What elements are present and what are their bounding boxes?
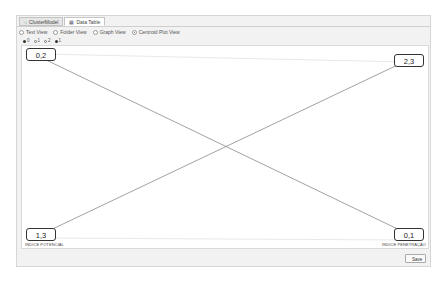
- legend-item: 2: [44, 38, 51, 44]
- app-window: ⤷ ClusterModel ▦ Data Table Text View Fo…: [16, 15, 431, 267]
- centroid-node-top-left[interactable]: 0,2: [26, 48, 56, 61]
- plot-legend: 0 1 2 1: [23, 38, 61, 44]
- legend-label: 1: [38, 38, 41, 44]
- tab-label: ClusterModel: [29, 18, 58, 26]
- radio-button[interactable]: [132, 30, 137, 35]
- radio-graph-view[interactable]: Graph View: [93, 28, 126, 36]
- legend-swatch-icon: [34, 40, 37, 43]
- tab-label: Data Table: [76, 18, 100, 26]
- axis-label-left: INDICE POTENCIAL: [25, 242, 64, 247]
- cluster-icon: ⤷: [24, 18, 27, 26]
- radio-label: Folder View: [60, 28, 86, 36]
- legend-swatch-icon: [55, 40, 58, 43]
- plot-lines: [22, 46, 428, 248]
- legend-swatch-icon: [44, 40, 47, 43]
- centroid-plot[interactable]: 0,2 2,3 1,3 0,1 INDICE POTENCIAL INDICE …: [21, 45, 429, 249]
- legend-item: 1: [55, 38, 62, 44]
- radio-label: Centroid Plot View: [139, 28, 180, 36]
- legend-label: 2: [48, 38, 51, 44]
- radio-centroid-plot-view[interactable]: Centroid Plot View: [132, 28, 180, 36]
- centroid-node-top-right[interactable]: 2,3: [394, 54, 424, 67]
- radio-button[interactable]: [93, 30, 98, 35]
- radio-button[interactable]: [53, 30, 58, 35]
- radio-folder-view[interactable]: Folder View: [53, 28, 86, 36]
- legend-item: 0: [23, 38, 30, 44]
- tab-data-table[interactable]: ▦ Data Table: [64, 17, 105, 26]
- legend-item: 1: [34, 38, 41, 44]
- legend-label: 1: [59, 38, 62, 44]
- view-mode-radio-group: Text View Folder View Graph View Centroi…: [19, 28, 180, 36]
- tab-divider: [17, 26, 430, 27]
- centroid-node-bottom-left[interactable]: 1,3: [26, 228, 56, 241]
- radio-label: Text View: [26, 28, 47, 36]
- legend-swatch-icon: [23, 40, 26, 43]
- save-button[interactable]: Save: [405, 254, 426, 263]
- table-icon: ▦: [69, 18, 74, 26]
- tab-cluster-model[interactable]: ⤷ ClusterModel: [19, 17, 63, 26]
- radio-label: Graph View: [100, 28, 126, 36]
- radio-button[interactable]: [19, 30, 24, 35]
- tab-bar: ⤷ ClusterModel ▦ Data Table: [19, 17, 105, 26]
- axis-label-right: INDICE PENETRAÇÃO: [382, 242, 426, 247]
- legend-label: 0: [27, 38, 30, 44]
- centroid-node-bottom-right[interactable]: 0,1: [394, 228, 424, 241]
- radio-text-view[interactable]: Text View: [19, 28, 47, 36]
